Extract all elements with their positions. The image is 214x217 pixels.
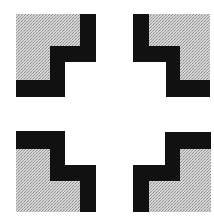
top-left-corner-mark [16, 14, 96, 97]
corner-marks-graphic [0, 0, 214, 217]
bottom-left-corner-mark [16, 131, 96, 212]
bottom-right-corner-mark [133, 132, 211, 212]
corner-marks-figure: Four staircase-shaped corner marks arran… [0, 0, 214, 217]
top-right-corner-mark [133, 14, 210, 97]
